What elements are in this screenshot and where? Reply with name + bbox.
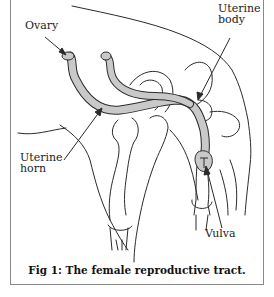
figure-caption: Fig 1: The female reproductive tract.	[10, 264, 264, 276]
uterine-body-arrow	[200, 38, 230, 96]
uterine-horn-arrow	[64, 111, 100, 160]
label-ovary: Ovary	[25, 20, 58, 31]
label-uterine-horn: Uterine horn	[20, 152, 63, 174]
label-uterine-body-line2: body	[218, 14, 261, 25]
label-uterine-body: Uterine body	[218, 3, 261, 25]
reproductive-tract-illustration	[0, 0, 274, 297]
ovary-right-shape	[101, 52, 111, 60]
vulva-arrow	[207, 170, 222, 228]
label-uterine-horn-line2: horn	[20, 163, 63, 174]
label-vulva: Vulva	[205, 228, 236, 239]
